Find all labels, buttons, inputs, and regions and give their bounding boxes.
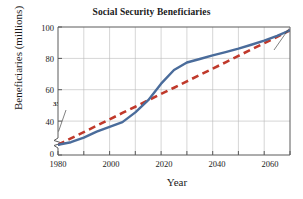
chart-figure: Social Security Beneficiaries Beneficiar… [0, 0, 303, 199]
chart-plot-area [0, 0, 303, 199]
